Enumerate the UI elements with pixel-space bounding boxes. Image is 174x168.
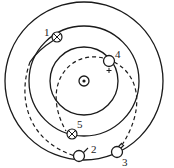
point-1-cross-icon — [52, 32, 62, 42]
label-1: 1 — [44, 26, 50, 38]
orbit-diagram: 1 4 5 2 3 — [0, 0, 174, 168]
point-4-plus-icon — [104, 56, 115, 74]
center-dot-icon — [79, 76, 89, 86]
point-2-circle-icon — [74, 151, 85, 162]
label-5: 5 — [77, 118, 83, 130]
label-4: 4 — [115, 48, 121, 60]
label-3: 3 — [122, 156, 128, 168]
point-3-circle-icon — [112, 147, 123, 158]
label-2: 2 — [91, 143, 97, 155]
point-5-cross-icon — [67, 129, 77, 139]
